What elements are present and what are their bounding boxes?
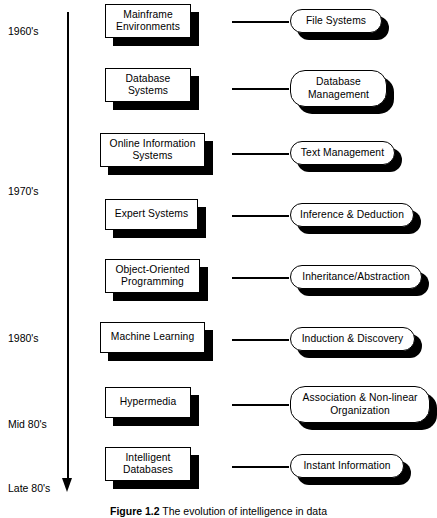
capability-capsule-face: Instant Information [290, 454, 404, 478]
figure-caption-text: The evolution of intelligence in data [162, 505, 327, 517]
technology-label: Mainframe Environments [116, 9, 180, 34]
era-label-1960-s: 1960's [8, 25, 39, 37]
capability-capsule-face: Database Management [290, 70, 387, 107]
capability-capsule-mainframe-environments: File Systems [290, 9, 390, 41]
technology-box-object-oriented-programming: Object-Oriented Programming [105, 259, 209, 302]
capability-capsule-hypermedia: Association & Non-linear Organization [290, 386, 437, 431]
capability-label: Database Management [308, 76, 369, 101]
technology-box-mainframe-environments: Mainframe Environments [105, 4, 200, 47]
figure-caption-label: Figure 1.2 [110, 505, 160, 517]
connector-line [232, 215, 289, 217]
capability-label: Inference & Deduction [300, 209, 404, 221]
capability-capsule-machine-learning: Induction & Discovery [290, 327, 423, 359]
technology-label: Machine Learning [111, 331, 194, 343]
connector-line [232, 339, 289, 341]
capability-capsule-intelligent-databases: Instant Information [290, 454, 412, 486]
capability-label: Text Management [301, 147, 384, 159]
capability-label: Association & Non-linear Organization [302, 392, 417, 417]
figure-caption: Figure 1.2 The evolution of intelligence… [0, 505, 437, 518]
technology-label: Intelligent Databases [123, 452, 173, 477]
capability-capsule-face: Induction & Discovery [290, 327, 415, 351]
technology-box-face: Mainframe Environments [105, 4, 191, 38]
era-label-1970-s: 1970's [8, 185, 39, 197]
technology-box-expert-systems: Expert Systems [105, 199, 207, 239]
capability-capsule-face: File Systems [290, 9, 382, 33]
technology-box-face: Machine Learning [100, 322, 205, 353]
capability-label: File Systems [306, 15, 366, 27]
capability-capsule-face: Inference & Deduction [290, 203, 414, 227]
technology-label: Object-Oriented Programming [115, 264, 189, 289]
connector-line [232, 466, 289, 468]
connector-line [232, 153, 289, 155]
era-label-late-80-s: Late 80's [8, 482, 50, 494]
capability-label: Induction & Discovery [302, 333, 404, 345]
technology-box-face: Online Information Systems [100, 133, 205, 167]
technology-box-face: Database Systems [105, 68, 191, 102]
technology-box-face: Hypermedia [105, 387, 191, 418]
technology-box-database-systems: Database Systems [105, 68, 200, 111]
technology-box-face: Object-Oriented Programming [105, 259, 200, 293]
era-label-mid-80-s: Mid 80's [8, 418, 47, 430]
capability-capsule-object-oriented-programming: Inheritance/Abstraction [290, 265, 430, 297]
connector-line [232, 277, 289, 279]
era-label-1980-s: 1980's [8, 332, 39, 344]
technology-label: Hypermedia [120, 396, 177, 408]
technology-label: Database Systems [126, 73, 171, 98]
technology-box-intelligent-databases: Intelligent Databases [105, 447, 200, 490]
capability-capsule-database-systems: Database Management [290, 70, 395, 115]
capability-capsule-face: Inheritance/Abstraction [290, 265, 422, 289]
connector-line [232, 404, 289, 406]
technology-label: Expert Systems [115, 208, 189, 220]
technology-box-face: Intelligent Databases [105, 447, 191, 481]
capability-capsule-online-information-systems: Text Management [290, 141, 403, 173]
time-axis-line [67, 12, 69, 482]
technology-box-machine-learning: Machine Learning [100, 322, 214, 362]
capability-capsule-face: Text Management [290, 141, 395, 165]
technology-label: Online Information Systems [110, 138, 196, 163]
capability-capsule-face: Association & Non-linear Organization [290, 386, 430, 423]
technology-box-hypermedia: Hypermedia [105, 387, 200, 427]
technology-box-online-information-systems: Online Information Systems [100, 133, 214, 176]
capability-label: Instant Information [303, 460, 390, 472]
connector-line [232, 21, 289, 23]
capability-label: Inheritance/Abstraction [302, 271, 410, 283]
time-axis-arrowhead-icon [62, 478, 72, 492]
technology-box-face: Expert Systems [105, 199, 198, 230]
connector-line [232, 88, 289, 90]
capability-capsule-expert-systems: Inference & Deduction [290, 203, 422, 235]
